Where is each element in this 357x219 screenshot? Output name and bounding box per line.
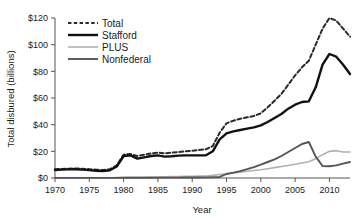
x-axis-title-text: Year — [192, 204, 211, 215]
y-tick-label: $20 — [33, 147, 48, 157]
y-tick-label: $40 — [33, 120, 48, 130]
y-tick-label: $120 — [28, 13, 48, 23]
x-tick-label: 2005 — [285, 185, 305, 195]
y-tick-label: $60 — [33, 93, 48, 103]
legend-label-nonfederal: Nonfederal — [102, 54, 151, 65]
x-tick-label: 2010 — [319, 185, 339, 195]
legend-label-total: Total — [102, 18, 123, 29]
chart-container: Total disbured (billions) $0$20$40$60$80… — [0, 0, 357, 219]
x-tick-label: 2000 — [251, 185, 271, 195]
x-tick-label: 1995 — [216, 185, 236, 195]
x-tick-label: 1975 — [79, 185, 99, 195]
y-tick-label: $100 — [28, 40, 48, 50]
x-tick-label: 1980 — [114, 185, 134, 195]
x-axis-ticks: 197019751980198519901995200020052010 — [45, 178, 339, 195]
legend-label-stafford: Stafford — [102, 30, 137, 41]
x-tick-label: 1970 — [45, 185, 65, 195]
legend-label-plus: PLUS — [102, 42, 128, 53]
y-axis-title: Total disbured (billions) — [5, 50, 16, 147]
y-axis-title-text: Total disbured (billions) — [5, 50, 16, 147]
y-tick-label: $0 — [38, 173, 48, 183]
y-tick-label: $80 — [33, 67, 48, 77]
x-tick-label: 1985 — [148, 185, 168, 195]
line-chart: Total disbured (billions) $0$20$40$60$80… — [0, 0, 357, 219]
x-tick-label: 1990 — [182, 185, 202, 195]
